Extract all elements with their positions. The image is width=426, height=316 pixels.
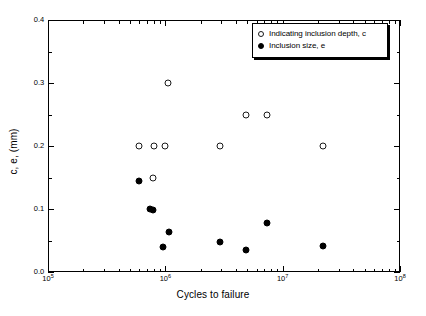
x-axis-minor-tick [264,269,265,273]
legend-item-label: Indicating inclusion depth, c [269,29,366,38]
x-axis-minor-tick [160,269,161,273]
x-axis-tick-label: 108 [394,274,405,283]
x-axis-minor-tick [271,269,272,273]
x-axis-minor-tick [83,269,84,273]
x-axis-tick [48,20,49,26]
x-axis-tick [165,20,166,26]
x-axis-minor-tick [382,269,383,273]
legend-item-label: Inclusion size, e [269,41,325,50]
x-axis-minor-tick [389,20,390,24]
x-axis-minor-tick [353,269,354,273]
x-axis-minor-tick [119,20,120,24]
y-axis-tick [394,272,400,273]
y-axis-minor-tick [48,178,52,179]
y-axis-minor-tick [397,178,401,179]
x-axis-minor-tick [395,20,396,24]
x-axis-minor-tick [119,269,120,273]
x-axis-minor-tick [147,20,148,24]
x-axis-minor-tick [236,269,237,273]
x-axis-minor-tick [257,269,258,273]
y-axis-tick [394,146,400,147]
y-axis-minor-tick [48,52,52,53]
x-axis-minor-tick [154,269,155,273]
x-axis-minor-tick [374,269,375,273]
x-axis-minor-tick [83,20,84,24]
x-axis-minor-tick [130,269,131,273]
x-axis-tick [283,266,284,272]
x-axis-tick-label: 107 [277,274,288,283]
scatter-chart-figure: 0.00.10.20.30.4105106107108 Indicating i… [0,0,426,316]
x-axis-minor-tick [318,269,319,273]
x-axis-minor-tick [221,20,222,24]
y-axis-tick-label: 0.4 [34,16,44,24]
x-axis-tick-label: 106 [160,274,171,283]
x-axis-minor-tick [104,20,105,24]
y-axis-tick [48,146,54,147]
open-circle-icon [258,31,264,37]
x-axis-tick [165,266,166,272]
x-axis-minor-tick [247,20,248,24]
x-axis-tick-label: 105 [42,274,53,283]
x-axis-tick [48,266,49,272]
legend-item-indicating-inclusion-depth: Indicating inclusion depth, c [258,28,382,39]
y-axis-title: c, e, (mm) [8,92,19,212]
legend-item-inclusion-size: Inclusion size, e [258,40,382,51]
chart-legend: Indicating inclusion depth, c Inclusion … [252,23,388,58]
x-axis-minor-tick [160,20,161,24]
y-axis-minor-tick [48,115,52,116]
y-axis-tick-label: 0.3 [34,79,44,87]
x-axis-minor-tick [147,269,148,273]
x-axis-minor-tick [277,269,278,273]
x-axis-minor-tick [139,20,140,24]
y-axis-tick-label: 0.1 [34,205,44,213]
x-axis-minor-tick [389,269,390,273]
x-axis-minor-tick [201,269,202,273]
x-axis-title: Cycles to failure [0,289,426,300]
x-axis-minor-tick [139,269,140,273]
y-axis-tick [394,209,400,210]
y-axis-minor-tick [397,115,401,116]
y-axis-minor-tick [48,241,52,242]
x-axis-minor-tick [236,20,237,24]
x-axis-minor-tick [154,20,155,24]
x-axis-minor-tick [395,269,396,273]
y-axis-minor-tick [397,241,401,242]
x-axis-minor-tick [130,20,131,24]
y-axis-tick [48,83,54,84]
x-axis-minor-tick [339,269,340,273]
filled-circle-icon [258,43,264,49]
x-axis-tick [400,266,401,272]
x-axis-tick [400,20,401,26]
x-axis-minor-tick [104,269,105,273]
y-axis-minor-tick [397,52,401,53]
y-axis-tick [48,209,54,210]
y-axis-tick [394,83,400,84]
x-axis-minor-tick [221,269,222,273]
x-axis-minor-tick [247,269,248,273]
y-axis-tick-label: 0.2 [34,142,44,150]
x-axis-minor-tick [365,269,366,273]
x-axis-minor-tick [201,20,202,24]
